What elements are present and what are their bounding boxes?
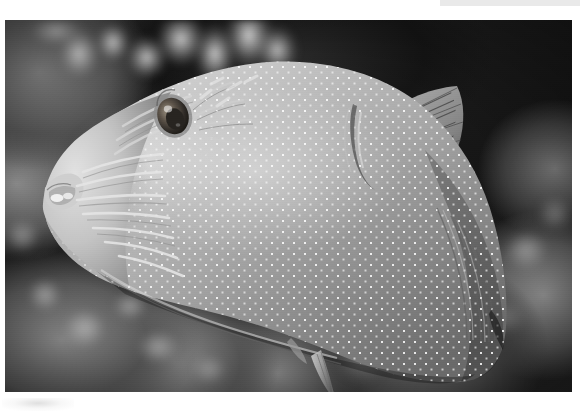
page-artifact <box>2 398 74 411</box>
photo-grain-overlay <box>5 20 572 392</box>
page-root <box>0 0 580 411</box>
header-strip <box>440 0 580 6</box>
underwater-fish-photograph <box>5 20 572 392</box>
